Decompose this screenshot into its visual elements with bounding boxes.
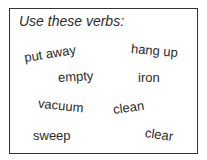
verb-empty: empty — [58, 68, 94, 85]
verb-iron: iron — [138, 70, 160, 85]
verb-sweep: sweep — [33, 128, 71, 143]
instruction-heading: Use these verbs: — [19, 13, 124, 29]
